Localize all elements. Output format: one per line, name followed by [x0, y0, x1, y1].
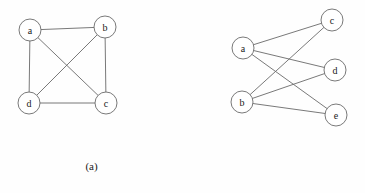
graph-edge	[38, 38, 98, 96]
graph-node: a	[19, 19, 41, 41]
graph-panel-a: abcd (a)	[0, 0, 183, 193]
graph-node-label: d	[27, 98, 32, 109]
graph-node: b	[94, 16, 116, 38]
graph-diagram-b: abcde	[183, 0, 365, 150]
graph-node-label: c	[330, 15, 335, 26]
graph-edge	[29, 41, 30, 92]
graph-node-label: e	[334, 110, 339, 121]
graph-diagram-a: abcd	[0, 0, 183, 150]
graph-edge	[105, 38, 106, 92]
graph-node-label: a	[28, 25, 33, 36]
graph-node: e	[325, 104, 347, 126]
graph-edge	[252, 54, 327, 108]
graph-node: c	[95, 92, 117, 114]
graph-node: b	[231, 91, 253, 113]
graph-node: d	[324, 59, 346, 81]
graph-node-label: a	[241, 43, 246, 54]
graph-edge	[253, 104, 325, 114]
graph-node: a	[232, 37, 254, 59]
graph-node-label: b	[240, 97, 245, 108]
graph-panel-b: abcde (b)	[183, 0, 365, 193]
graph-node-label: b	[103, 22, 108, 33]
graph-node: d	[18, 92, 40, 114]
graph-node-label: d	[333, 65, 338, 76]
graph-edge	[41, 27, 94, 29]
graph-node-label: c	[104, 98, 109, 109]
figure-root: abcd (a) abcde (b)	[0, 0, 365, 193]
graph-edge	[252, 74, 324, 99]
graph-edge	[253, 23, 321, 44]
graph-node: c	[321, 9, 343, 31]
panel-caption-a: (a)	[0, 160, 183, 172]
